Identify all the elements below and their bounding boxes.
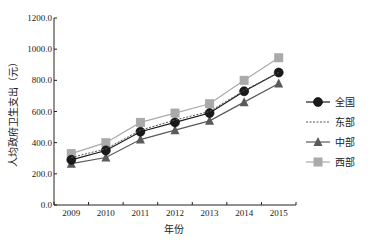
line-chart: 0.0200.0400.0600.0800.01000.01200.020092… bbox=[0, 0, 379, 246]
legend-item: 东部 bbox=[306, 116, 355, 128]
x-tick-label: 2015 bbox=[270, 208, 289, 218]
data-point bbox=[240, 97, 249, 106]
y-tick-label: 200.0 bbox=[32, 169, 53, 179]
y-tick-label: 800.0 bbox=[32, 75, 53, 85]
x-tick-label: 2010 bbox=[97, 208, 116, 218]
legend-marker bbox=[314, 158, 323, 167]
legend-item: 西部 bbox=[306, 156, 355, 168]
legend-label: 东部 bbox=[335, 116, 355, 128]
y-tick-label: 400.0 bbox=[32, 138, 53, 148]
x-tick-label: 2011 bbox=[132, 208, 150, 218]
data-point bbox=[205, 99, 214, 108]
legend-label: 全国 bbox=[335, 96, 355, 108]
legend: 全国东部中部西部 bbox=[306, 96, 355, 168]
legend-label: 中部 bbox=[335, 136, 355, 148]
legend-item: 全国 bbox=[306, 96, 355, 108]
data-point bbox=[205, 109, 214, 118]
data-point bbox=[171, 109, 180, 118]
series-西部 bbox=[67, 53, 283, 158]
data-point bbox=[67, 155, 76, 164]
legend-label: 西部 bbox=[335, 156, 355, 168]
data-point bbox=[171, 118, 180, 127]
axes: 0.0200.0400.0600.0800.01000.01200.020092… bbox=[27, 13, 296, 218]
legend-marker bbox=[314, 98, 323, 107]
data-point bbox=[274, 53, 283, 62]
data-point bbox=[240, 76, 249, 85]
y-tick-label: 1000.0 bbox=[27, 44, 52, 54]
data-point bbox=[240, 87, 249, 96]
x-tick-label: 2012 bbox=[166, 208, 184, 218]
x-tick-label: 2014 bbox=[235, 208, 254, 218]
legend-item: 中部 bbox=[306, 136, 355, 148]
data-point bbox=[136, 118, 145, 127]
data-point bbox=[274, 78, 283, 87]
y-tick-label: 0.0 bbox=[41, 200, 53, 210]
series-layer bbox=[67, 53, 283, 167]
y-tick-label: 600.0 bbox=[32, 107, 53, 117]
y-axis-title: 人均政府卫生支出（元） bbox=[7, 57, 19, 167]
y-tick-label: 1200.0 bbox=[27, 13, 52, 23]
x-tick-label: 2009 bbox=[62, 208, 81, 218]
x-axis-title: 年份 bbox=[164, 223, 184, 235]
x-tick-label: 2013 bbox=[201, 208, 220, 218]
